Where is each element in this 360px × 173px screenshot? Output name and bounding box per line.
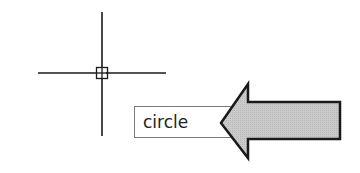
callout-graphics <box>0 0 360 173</box>
arrow-left-icon <box>221 84 340 158</box>
drawing-canvas[interactable]: circle <box>0 0 360 173</box>
